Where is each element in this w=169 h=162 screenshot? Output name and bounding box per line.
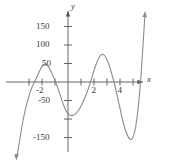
y-tick-label-100: 100 [36,40,50,49]
y-axis-label: y [71,2,75,11]
curve-right-arrowhead [142,11,147,17]
x-axis-label: x [147,75,151,84]
x-tick-label-2: 2 [92,86,97,95]
x-tick-label-minus2: -2 [36,86,44,95]
x-tick-label-4: 4 [118,86,123,95]
y-tick-label-50: 50 [42,59,51,68]
graph-figure: 150 100 50 -50 -150 -2 2 4 y x [0,0,169,162]
y-tick-label-150: 150 [36,22,50,31]
y-tick-label-minus50: -50 [38,96,50,105]
curve-left-arrowhead [14,154,19,161]
axes-group [6,11,143,152]
polynomial-graph-plot [0,0,169,162]
y-tick-label-minus150: -150 [33,133,50,142]
y-axis-arrowhead [66,11,70,17]
